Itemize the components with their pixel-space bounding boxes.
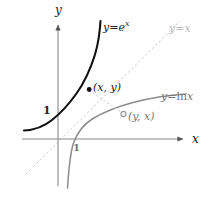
point-label-xy: (x, y)	[93, 82, 121, 93]
y-axis-tick-one: 1	[43, 105, 51, 116]
x-axis-label: x	[192, 133, 199, 145]
point-marker-yx	[121, 111, 126, 116]
curve-label-exponential: y=ex	[103, 20, 129, 33]
exp-curve-path	[24, 21, 101, 131]
ln-curve-path	[68, 94, 187, 188]
curve-label-identity: y=x	[169, 23, 191, 34]
curve-label-exponential-exponent: x	[125, 19, 129, 28]
x-axis-tick-one: 1	[73, 143, 80, 153]
point-marker-xy	[87, 87, 92, 92]
curve-label-logarithm-function: ln	[176, 90, 187, 103]
function-reflection-diagram: y x 1 1 y=ex y=x y=lnx (x, y) (y, x)	[0, 0, 208, 197]
y-axis-label: y	[55, 4, 62, 16]
curve-label-logarithm-argument: x	[187, 90, 193, 103]
curve-label-logarithm-prefix: y=	[161, 90, 176, 103]
point-label-yx: (y, x)	[128, 111, 155, 122]
curve-label-logarithm: y=lnx	[161, 91, 193, 102]
curve-label-exponential-base: y=e	[103, 21, 125, 34]
